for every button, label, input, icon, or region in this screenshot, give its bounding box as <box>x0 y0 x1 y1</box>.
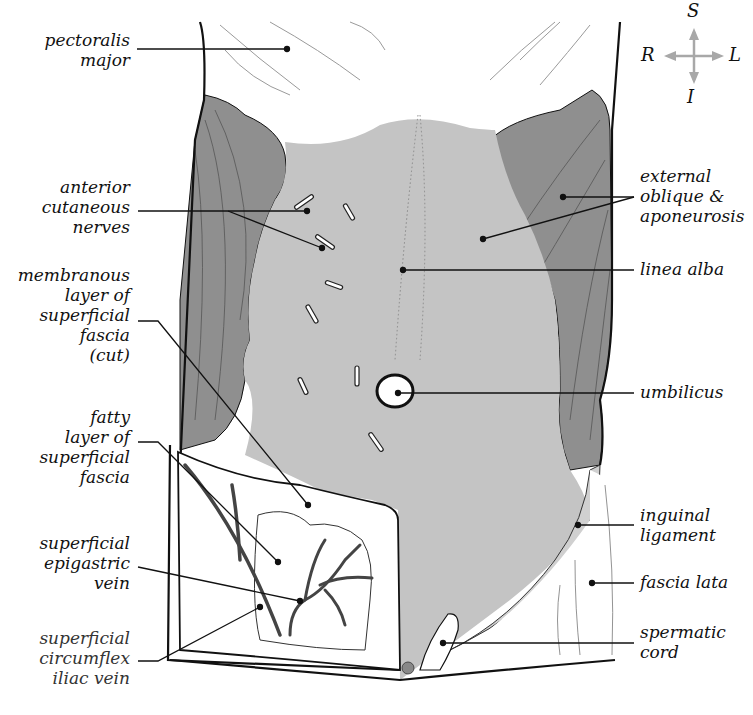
label-inguinal-ligament: inguinal ligament <box>640 505 716 545</box>
umbilicus-shape <box>377 375 413 407</box>
label-spermatic-cord: spermatic cord <box>640 622 726 662</box>
label-anterior-cutaneous-nerves: anterior cutaneous nerves <box>42 177 130 237</box>
compass-inferior-label: I <box>687 86 694 107</box>
compass-superior-label: S <box>687 0 699 21</box>
compass-right-label: R <box>641 44 655 65</box>
label-umbilicus: umbilicus <box>640 382 723 402</box>
label-external-oblique: external oblique & aponeurosis <box>640 166 744 226</box>
label-superficial-circumflex-iliac-vein: superficial circumflex iliac vein <box>39 628 130 688</box>
label-pectoralis-major: pectoralis major <box>45 30 130 70</box>
compass-left-label: L <box>729 44 741 65</box>
label-fascia-lata: fascia lata <box>640 572 728 592</box>
label-membranous-layer: membranous layer of superficial fascia (… <box>18 265 130 365</box>
label-superficial-epigastric-vein: superficial epigastric vein <box>39 533 130 593</box>
label-fatty-layer: fatty layer of superficial fascia <box>39 407 130 487</box>
label-linea-alba: linea alba <box>640 259 724 279</box>
orientation-compass-arrows <box>664 28 724 84</box>
